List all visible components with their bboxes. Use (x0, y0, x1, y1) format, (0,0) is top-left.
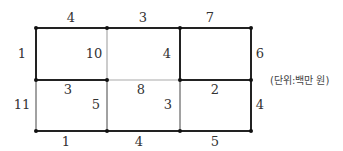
right-edge-label: 6 (256, 47, 264, 60)
bottom-edge-label: 1 (62, 135, 70, 148)
cell-value: 5 (92, 98, 100, 111)
bottom-edge-label: 4 (135, 135, 143, 148)
unit-note: (단위:백만 원) (270, 76, 329, 86)
left-edge-label: 1 (18, 47, 26, 60)
middle-edge-label: 8 (137, 83, 145, 96)
left-edge-label: 11 (14, 98, 31, 111)
middle-edge-label: 3 (64, 83, 72, 96)
right-edge-label: 4 (256, 98, 264, 111)
cell-value: 3 (164, 98, 172, 111)
top-edge-label: 3 (139, 11, 147, 24)
top-edge-label: 7 (206, 11, 214, 24)
top-edge-label: 4 (67, 11, 75, 24)
bottom-edge-label: 5 (211, 135, 219, 148)
middle-edge-label: 2 (211, 83, 219, 96)
cell-value: 10 (86, 47, 103, 60)
cell-value: 4 (163, 47, 171, 60)
